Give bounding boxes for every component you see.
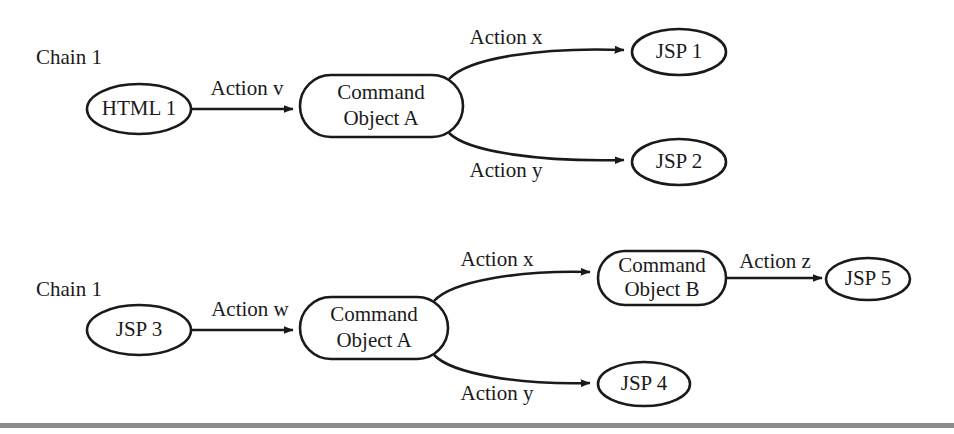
edge-action-z[interactable]: Action z (727, 249, 822, 278)
jsp-1-label: JSP 1 (656, 39, 703, 63)
command-object-a-top-label-line1: Command (337, 80, 425, 104)
top-action-y-label: Action y (470, 158, 543, 182)
bottom-action-x-label: Action x (461, 247, 534, 271)
top-action-y-arrow (449, 133, 624, 160)
action-z-label: Action z (739, 249, 811, 273)
jsp-5-label: JSP 5 (845, 266, 892, 290)
edge-bottom-action-x[interactable]: Action x (434, 247, 590, 301)
node-jsp-1[interactable]: JSP 1 (632, 29, 726, 75)
node-jsp-3[interactable]: JSP 3 (87, 305, 191, 355)
chain-top-label: Chain 1 (36, 45, 102, 69)
chain-bottom-label: Chain 1 (36, 277, 102, 301)
command-object-b-label-line2: Object B (624, 277, 699, 301)
chain-top-group: Chain 1 HTML 1 Action v Command Object A… (36, 25, 726, 185)
node-jsp-4[interactable]: JSP 4 (598, 362, 690, 406)
edge-top-action-y[interactable]: Action y (449, 133, 624, 182)
command-object-a-bottom-label-line1: Command (330, 302, 418, 326)
figure-root: Chain 1 HTML 1 Action v Command Object A… (0, 0, 954, 434)
node-command-object-a-bottom[interactable]: Command Object A (300, 297, 448, 359)
node-command-object-a-top[interactable]: Command Object A (300, 75, 463, 137)
edge-action-v[interactable]: Action v (191, 76, 293, 109)
footer-divider (0, 423, 954, 428)
bottom-action-y-arrow (434, 355, 590, 383)
node-jsp-2[interactable]: JSP 2 (632, 139, 726, 185)
jsp-2-label: JSP 2 (656, 149, 703, 173)
command-object-a-bottom-label-line2: Object A (336, 328, 412, 352)
command-object-a-top-label-line2: Object A (343, 106, 419, 130)
node-command-object-b[interactable]: Command Object B (598, 251, 726, 305)
edge-action-w[interactable]: Action w (191, 297, 293, 330)
flow-diagram: Chain 1 HTML 1 Action v Command Object A… (0, 0, 954, 434)
jsp-3-label: JSP 3 (116, 317, 163, 341)
edge-top-action-x[interactable]: Action x (449, 25, 624, 79)
jsp-4-label: JSP 4 (621, 371, 668, 395)
top-action-x-label: Action x (470, 25, 543, 49)
command-object-b-label-line1: Command (618, 253, 706, 277)
bottom-action-x-arrow (434, 272, 590, 301)
node-jsp-5[interactable]: JSP 5 (826, 258, 910, 300)
bottom-action-y-label: Action y (461, 381, 534, 405)
action-v-label: Action v (211, 76, 284, 100)
edge-bottom-action-y[interactable]: Action y (434, 355, 590, 405)
node-html-1[interactable]: HTML 1 (87, 84, 191, 134)
html-1-label: HTML 1 (102, 96, 176, 120)
action-w-label: Action w (211, 297, 289, 321)
top-action-x-arrow (449, 50, 624, 79)
chain-bottom-group: Chain 1 JSP 3 Action w Command Object A … (36, 247, 910, 406)
